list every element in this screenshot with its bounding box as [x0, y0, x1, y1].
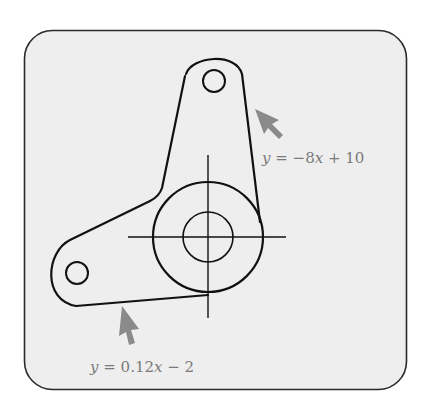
rounded-panel — [25, 31, 407, 390]
upper-edge-equation: y = −8x + 10 — [261, 149, 364, 167]
bracket-diagram: y = −8x + 10 y = 0.12x − 2 — [0, 0, 429, 411]
lower-edge-equation: y = 0.12x − 2 — [89, 358, 194, 376]
